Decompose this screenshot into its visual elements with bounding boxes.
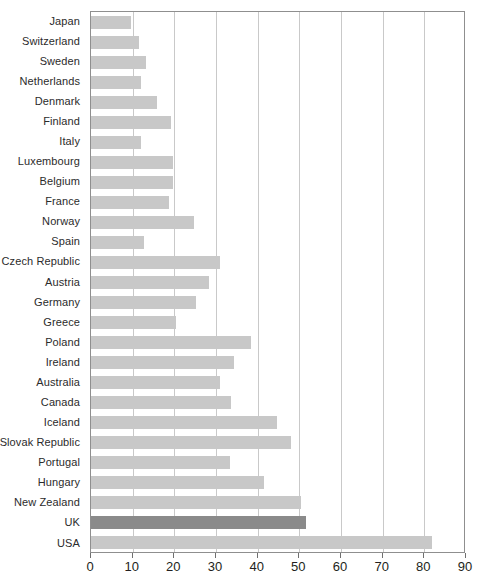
bar: [91, 416, 277, 429]
bar-row: [91, 432, 464, 452]
axis-tick: [173, 553, 174, 558]
category-label: Ireland: [0, 352, 86, 372]
bar: [91, 396, 231, 409]
axis-tick: [132, 553, 133, 558]
bar-chart: JapanSwitzerlandSwedenNetherlandsDenmark…: [0, 0, 480, 585]
bar: [91, 36, 139, 49]
axis-tick-label: 70: [374, 560, 388, 573]
bar: [91, 236, 144, 249]
category-label: UK: [0, 513, 86, 533]
axis-tick: [215, 553, 216, 558]
bar-row: [91, 72, 464, 92]
bar: [91, 96, 157, 109]
bar-row: [91, 452, 464, 472]
bar: [91, 516, 306, 529]
category-label: Germany: [0, 292, 86, 312]
category-label: Canada: [0, 392, 86, 412]
bar-row: [91, 252, 464, 272]
category-label: Spain: [0, 232, 86, 252]
bar: [91, 76, 141, 89]
bar: [91, 56, 146, 69]
category-label: France: [0, 192, 86, 212]
category-label: Sweden: [0, 51, 86, 71]
bar-row: [91, 92, 464, 112]
axis-tick-label: 10: [124, 560, 138, 573]
axis-tick-label: 50: [291, 560, 305, 573]
bar-row: [91, 492, 464, 512]
bar-row: [91, 392, 464, 412]
bar-row: [91, 532, 464, 552]
bar: [91, 256, 220, 269]
bar-row: [91, 12, 464, 32]
bar-row: [91, 212, 464, 232]
bar: [91, 496, 301, 509]
category-label: Slovak Republic: [0, 433, 86, 453]
category-label: Australia: [0, 372, 86, 392]
bar-row: [91, 352, 464, 372]
bar-row: [91, 292, 464, 312]
bar: [91, 296, 196, 309]
bar-row: [91, 152, 464, 172]
axis-tick: [90, 553, 91, 558]
bar: [91, 456, 230, 469]
category-label: Belgium: [0, 172, 86, 192]
bar: [91, 376, 220, 389]
axis-tick-label: 30: [208, 560, 222, 573]
bar-row: [91, 512, 464, 532]
axis-tick: [340, 553, 341, 558]
bar: [91, 356, 234, 369]
category-label: Portugal: [0, 453, 86, 473]
bar: [91, 136, 141, 149]
category-label: New Zealand: [0, 493, 86, 513]
category-label: Czech Republic: [0, 252, 86, 272]
bar-row: [91, 172, 464, 192]
axis-tick: [382, 553, 383, 558]
bars-layer: [91, 12, 464, 552]
bar-row: [91, 312, 464, 332]
category-label: Austria: [0, 272, 86, 292]
bar: [91, 176, 173, 189]
category-label: Hungary: [0, 473, 86, 493]
bar-row: [91, 272, 464, 292]
category-label: Netherlands: [0, 71, 86, 91]
bar-row: [91, 32, 464, 52]
category-label: Italy: [0, 131, 86, 151]
bar-row: [91, 472, 464, 492]
bar: [91, 216, 194, 229]
bar: [91, 536, 432, 549]
bar: [91, 436, 291, 449]
bar-row: [91, 112, 464, 132]
bar-row: [91, 132, 464, 152]
bar-row: [91, 372, 464, 392]
bar-row: [91, 332, 464, 352]
bar-row: [91, 232, 464, 252]
axis-tick-label: 40: [249, 560, 263, 573]
axis-tick-label: 20: [166, 560, 180, 573]
category-label: Switzerland: [0, 31, 86, 51]
bar: [91, 336, 251, 349]
bar-row: [91, 412, 464, 432]
bar: [91, 196, 169, 209]
value-axis: 0102030405060708090: [90, 553, 465, 583]
category-axis-labels: JapanSwitzerlandSwedenNetherlandsDenmark…: [0, 11, 86, 553]
axis-tick-label: 90: [458, 560, 472, 573]
category-label: USA: [0, 533, 86, 553]
category-label: Norway: [0, 212, 86, 232]
category-label: Poland: [0, 332, 86, 352]
category-label: Finland: [0, 111, 86, 131]
category-label: Luxembourg: [0, 152, 86, 172]
bar: [91, 156, 173, 169]
axis-tick: [423, 553, 424, 558]
category-label: Denmark: [0, 91, 86, 111]
bar-row: [91, 52, 464, 72]
bar: [91, 16, 131, 29]
axis-tick: [465, 553, 466, 558]
axis-tick-label: 80: [416, 560, 430, 573]
bar: [91, 116, 171, 129]
bar: [91, 316, 176, 329]
axis-tick-label: 60: [333, 560, 347, 573]
axis-tick: [257, 553, 258, 558]
category-label: Greece: [0, 312, 86, 332]
bar: [91, 476, 264, 489]
bar-row: [91, 192, 464, 212]
